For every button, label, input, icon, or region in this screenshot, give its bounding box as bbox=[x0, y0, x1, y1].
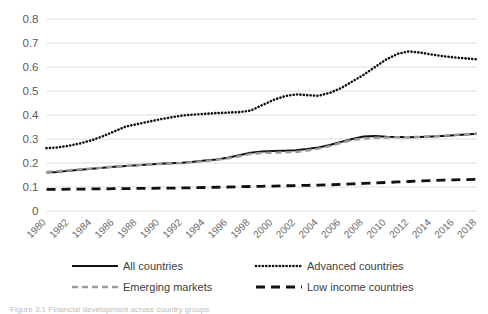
y-tick-label: 0 bbox=[32, 205, 38, 217]
y-tick-label: 0.2 bbox=[23, 157, 39, 169]
legend-label-advanced-countries: Advanced countries bbox=[307, 260, 404, 272]
y-tick-label: 0.1 bbox=[23, 181, 39, 193]
legend-label-all-countries: All countries bbox=[123, 260, 183, 272]
line-chart: 0.80.70.60.50.40.30.20.10 19801982198419… bbox=[0, 0, 488, 314]
y-tick-label: 0.3 bbox=[23, 133, 39, 145]
caption-label: Figure 3.1 Financial development across … bbox=[10, 305, 209, 314]
y-tick-label: 0.4 bbox=[23, 109, 40, 121]
y-tick-label: 0.5 bbox=[23, 85, 39, 97]
legend-label-emerging-markets: Emerging markets bbox=[123, 281, 213, 293]
legend-label-low-income-countries: Low income countries bbox=[307, 281, 414, 293]
y-tick-label: 0.7 bbox=[23, 37, 39, 49]
y-tick-label: 0.6 bbox=[23, 61, 39, 73]
y-axis-tick-labels: 0.80.70.60.50.40.30.20.10 bbox=[23, 13, 40, 217]
figure-container: 0.80.70.60.50.40.30.20.10 19801982198419… bbox=[0, 0, 488, 314]
figure-caption: Figure 3.1 Financial development across … bbox=[10, 305, 209, 314]
y-tick-label: 0.8 bbox=[23, 13, 39, 25]
